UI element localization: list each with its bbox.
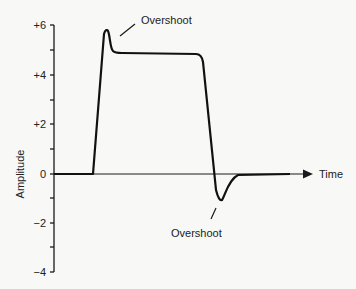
- x-axis-title: Time: [319, 168, 343, 180]
- tick-label-zero: 0: [40, 168, 46, 180]
- tick-label-plus4: +4: [33, 69, 46, 81]
- overshoot-top-label: Overshoot: [141, 14, 192, 26]
- overshoot-top-leader: [120, 24, 135, 36]
- tick-label-plus6: +6: [33, 19, 46, 31]
- chart-canvas: +6 +4 +2 0 −2 −4 Amplitude Time Overshoo…: [0, 0, 356, 289]
- tick-label-plus2: +2: [33, 118, 46, 130]
- overshoot-bottom-label: Overshoot: [171, 227, 222, 239]
- y-axis-title: Amplitude: [14, 150, 26, 199]
- tick-label-minus2: −2: [33, 217, 46, 229]
- x-axis-arrow-icon: [303, 170, 313, 179]
- pulse-waveform: [54, 30, 290, 200]
- overshoot-bottom-leader: [211, 208, 216, 219]
- tick-label-minus4: −4: [33, 266, 46, 278]
